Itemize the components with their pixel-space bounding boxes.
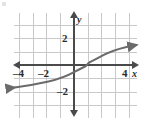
x-tick-label-neg4: –4	[13, 68, 24, 79]
x-tick-label-neg2: –2	[38, 68, 49, 79]
x-tick-label-4: 4	[122, 68, 128, 79]
plot-area	[14, 13, 137, 118]
y-tick-label-2: 2	[62, 33, 68, 44]
y-tick-label-neg2: –2	[57, 86, 68, 97]
x-axis-label: x	[132, 69, 137, 79]
curve-path	[15, 45, 137, 88]
registration-mark-icon	[2, 2, 6, 6]
curve-layer	[14, 13, 137, 118]
graph-figure: 2 –2 –4 –2 4 x y	[0, 0, 144, 127]
y-axis-label: y	[77, 15, 81, 25]
